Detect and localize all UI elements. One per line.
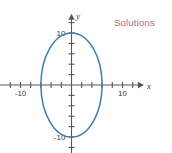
x-axis-label: x <box>146 81 151 91</box>
y-axis-label: y <box>75 11 80 21</box>
x-axis-arrow <box>138 82 144 88</box>
x-axis-tick-label: -10 <box>15 89 27 98</box>
y-axis-tick-label: -10 <box>54 133 66 142</box>
solutions-annotation: Solutions <box>114 17 155 28</box>
x-axis-tick-label: 10 <box>118 89 127 98</box>
y-axis-arrow <box>68 14 74 20</box>
graph-figure: -101010-10xy Solutions <box>0 0 172 153</box>
